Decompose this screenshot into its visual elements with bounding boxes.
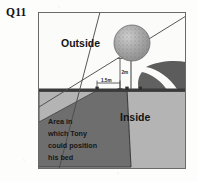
ground-marker-right [139, 87, 142, 90]
question-number-label: Q11 [6, 6, 26, 18]
figure-frame: 2m 1.5m Outside Inside Area in which Ton… [38, 12, 186, 169]
ground-marker-middle [125, 87, 128, 90]
vertical-dimension-label: 2m [122, 70, 129, 75]
horizontal-dimension-label: 1.5m [101, 78, 111, 83]
outside-label: Outside [61, 37, 100, 49]
ground-marker-left [95, 87, 98, 90]
bed-area-label-line-3: could position [48, 141, 97, 150]
bed-area-label-line-1: Area in [48, 117, 72, 126]
outside-region [38, 12, 186, 91]
bed-area-label-line-4: his bed [48, 153, 73, 162]
page-background: Q11 [0, 0, 197, 182]
bush-speckle-texture [114, 25, 150, 61]
diagram-canvas: 2m 1.5m Outside Inside Area in which Ton… [38, 12, 186, 169]
inside-label: Inside [120, 111, 151, 123]
ground-line [38, 89, 186, 92]
bed-area-label-line-2: which Tony [47, 129, 87, 138]
